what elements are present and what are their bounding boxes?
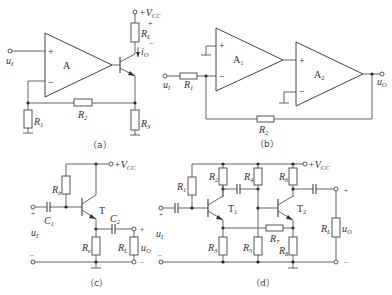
svg-text:uO: uO — [141, 242, 151, 254]
svg-text:R3: R3 — [140, 118, 151, 130]
vcc-terminal-d — [303, 162, 307, 166]
resistor-r6 — [289, 168, 297, 185]
opamp-a — [45, 33, 112, 97]
circuit-figure: + − A +VCC + RL − iO R2 — [0, 0, 392, 295]
resistor-rl — [131, 23, 139, 42]
panel-a: + − A +VCC + RL − iO R2 — [6, 7, 161, 150]
svg-text:+: + — [31, 210, 35, 218]
resistor-r1-d — [188, 177, 196, 195]
resistor-r8 — [289, 237, 297, 255]
svg-text:C2: C2 — [110, 213, 121, 225]
svg-text:−: − — [149, 39, 154, 48]
svg-text:+VCC: +VCC — [139, 7, 161, 19]
svg-text:uO: uO — [342, 223, 352, 235]
svg-text:R1: R1 — [176, 181, 186, 193]
svg-text:R5: R5 — [242, 242, 253, 254]
svg-text:+: + — [219, 40, 225, 51]
svg-text:uI: uI — [163, 79, 171, 91]
circuit-diagrams: + − A +VCC + RL − iO R2 — [0, 0, 392, 295]
resistor-r1 — [24, 110, 32, 128]
resistor-r3-d — [219, 237, 227, 255]
panel-c: +VCC Rb C1 + uI T C2 + — [30, 159, 151, 288]
svg-text:+VCC: +VCC — [308, 159, 330, 171]
resistor-r5 — [254, 237, 262, 255]
resistor-r2 — [74, 99, 92, 106]
svg-text:uO: uO — [377, 76, 387, 88]
svg-text:uI: uI — [6, 55, 14, 67]
svg-text:+: + — [140, 226, 144, 234]
svg-text:R7: R7 — [269, 233, 280, 245]
svg-text:R3: R3 — [207, 242, 218, 254]
svg-text:R2: R2 — [208, 171, 219, 183]
resistor-re — [92, 237, 100, 255]
amp-label: A — [63, 60, 71, 71]
svg-text:RL: RL — [117, 242, 128, 254]
vcc-terminal-c — [109, 162, 113, 166]
input-terminal-b — [163, 74, 167, 78]
resistor-r4 — [254, 168, 262, 185]
panel-d: +VCC R1 + uI R2 T1 — [156, 159, 352, 288]
svg-text:iO: iO — [141, 46, 149, 58]
svg-text:R2: R2 — [258, 124, 269, 136]
caption-c: （c） — [85, 278, 108, 288]
svg-text:Rb: Rb — [51, 184, 62, 196]
svg-text:R6: R6 — [278, 171, 289, 183]
svg-text:C1: C1 — [44, 215, 54, 227]
resistor-rb — [62, 176, 70, 194]
svg-text:uI: uI — [156, 228, 164, 240]
svg-text:R2: R2 — [77, 109, 88, 121]
opamp-a2 — [296, 42, 363, 106]
svg-text:−: − — [140, 259, 144, 267]
resistor-r7 — [266, 225, 283, 231]
svg-text:−: − — [48, 77, 54, 88]
input-terminal — [8, 49, 12, 53]
svg-text:T1: T1 — [228, 203, 237, 215]
svg-text:−: − — [299, 86, 305, 97]
caption-b: （b） — [255, 139, 279, 149]
svg-text:+: + — [299, 55, 305, 66]
svg-text:Re: Re — [81, 242, 91, 254]
svg-text:T: T — [99, 205, 105, 216]
svg-text:+: + — [48, 46, 54, 57]
svg-text:+: + — [159, 211, 163, 219]
resistor-r3 — [131, 110, 139, 130]
svg-text:−: − — [158, 252, 162, 260]
svg-text:T2: T2 — [297, 203, 306, 215]
svg-text:R1: R1 — [183, 79, 193, 91]
svg-text:RL: RL — [320, 223, 331, 235]
resistor-rl-d — [332, 218, 340, 237]
svg-text:−: − — [30, 252, 34, 260]
resistor-rl-c — [130, 237, 138, 255]
svg-text:−: − — [344, 259, 348, 267]
opamp-a1 — [216, 28, 283, 91]
svg-text:R1: R1 — [33, 116, 43, 128]
svg-text:R8: R8 — [278, 245, 289, 257]
panel-b: uI R1 + − A1 + − A2 uO R2 （b） — [163, 28, 387, 149]
caption-d: （d） — [251, 278, 275, 288]
svg-text:uI: uI — [31, 227, 39, 239]
svg-text:+: + — [344, 187, 348, 195]
svg-text:R4: R4 — [243, 171, 254, 183]
resistor-r2-d — [219, 168, 227, 185]
svg-text:+VCC: +VCC — [114, 159, 136, 171]
svg-text:+: + — [148, 19, 153, 28]
vcc-terminal — [133, 10, 137, 14]
svg-text:−: − — [219, 71, 225, 82]
caption-a: （a） — [88, 140, 112, 150]
resistor-r2-b — [257, 116, 274, 122]
